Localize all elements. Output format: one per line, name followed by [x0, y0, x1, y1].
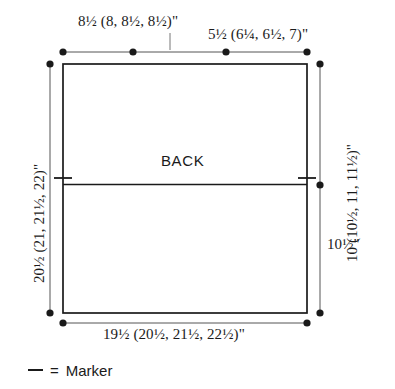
- dimension-dot-right-top: [316, 60, 323, 67]
- legend-label: Marker: [66, 362, 113, 379]
- dimension-label-top-right: 5½ (6¼, 6½, 7)": [208, 27, 308, 43]
- schematic-diagram: 8½ (8, 8½, 8½)" 5½ (6¼, 6½, 7)" 19½ (20½…: [0, 0, 395, 389]
- piece-label-back: BACK: [161, 152, 204, 169]
- legend: = Marker: [28, 362, 112, 379]
- back-piece-outline: [63, 64, 307, 313]
- dimension-dot-top-left: [59, 48, 66, 55]
- dimension-dot-top-mid-b: [222, 48, 229, 55]
- dimension-label-right-lower: 10½": [327, 237, 360, 253]
- dimension-dot-right-bottom: [316, 309, 323, 316]
- dimension-label-bottom: 19½ (20½, 21½, 22½)": [103, 327, 245, 343]
- dimension-dot-bottom-left: [59, 319, 66, 326]
- dimension-dot-left-top: [46, 60, 53, 67]
- dimension-dot-bottom-right: [303, 319, 310, 326]
- dimension-dot-left-bottom: [46, 309, 53, 316]
- dimension-label-top-left: 8½ (8, 8½, 8½)": [78, 14, 178, 30]
- dimension-dot-top-mid-a: [129, 48, 136, 55]
- marker-dash-icon: [28, 369, 43, 371]
- dimension-label-left: 20½ (21, 21½, 22)": [32, 164, 48, 283]
- dimension-dot-top-right: [303, 48, 310, 55]
- dimension-dot-right-middle: [316, 181, 323, 188]
- legend-equals: =: [50, 362, 59, 379]
